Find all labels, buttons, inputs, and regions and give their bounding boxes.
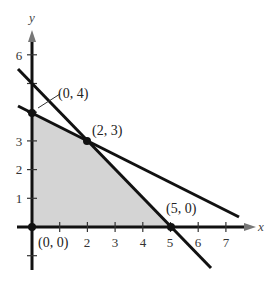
x-tick-label: 7 [223, 235, 230, 250]
point-label: (0, 4) [58, 86, 89, 102]
x-axis-label: x [257, 219, 264, 234]
x-tick-label: 2 [84, 235, 91, 250]
y-tick-label: 3 [16, 134, 23, 149]
feasible-region-chart: 2 3 4 5 6 7 1 2 3 6 x y (0, 4) (2, 3) (5… [0, 0, 280, 289]
x-tick-label: 6 [195, 235, 202, 250]
x-axis-arrow-icon [244, 223, 256, 231]
point-label: (0, 0) [38, 235, 69, 251]
y-tick-label: 2 [16, 162, 23, 177]
y-axis-arrow-icon [28, 30, 36, 42]
vertex-point [167, 223, 175, 231]
vertex-point [83, 137, 91, 145]
vertex-point [28, 223, 36, 231]
y-tick-label: 1 [16, 191, 23, 206]
vertex-point [28, 109, 36, 117]
x-tick-label: 4 [140, 235, 147, 250]
x-tick-label: 5 [167, 235, 174, 250]
point-label: (2, 3) [92, 123, 123, 139]
y-axis-label: y [27, 10, 35, 25]
label-leader-line [38, 94, 60, 108]
x-tick-label: 3 [112, 235, 119, 250]
y-tick-label: 6 [16, 48, 23, 63]
point-label: (5, 0) [166, 201, 197, 217]
